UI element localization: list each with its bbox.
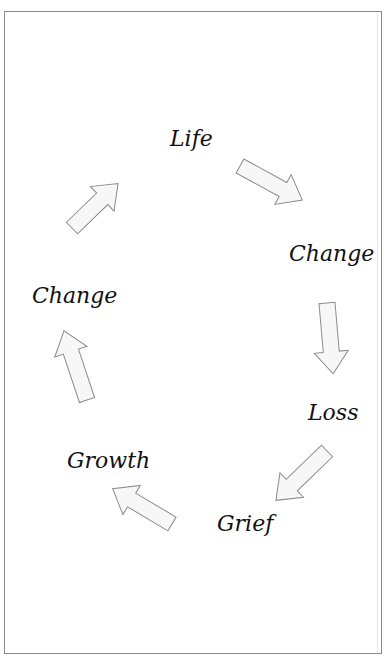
arrow-change-to-life-icon [60,171,130,240]
cycle-arrows [0,0,384,657]
arrow-loss-to-grief-icon [264,439,339,513]
arrow-life-to-change-icon [232,151,311,215]
arrow-change-to-loss-icon [310,302,350,376]
arrow-grief-to-growth-icon [104,474,181,538]
arrow-growth-to-change-icon [48,325,103,405]
